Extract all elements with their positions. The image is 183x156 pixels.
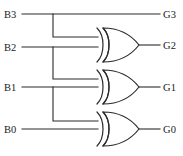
xor-gate-g0[interactable]	[97, 112, 160, 146]
xor-body-g1	[103, 70, 139, 104]
logic-circuit-diagram: B3 B2 B1 B0 G3 G2 G1 G0	[0, 0, 183, 156]
input-label-b3: B3	[4, 9, 16, 20]
xor-body-g0	[103, 112, 139, 146]
wire-b1-tap-to-xor-g0	[53, 87, 98, 121]
input-label-b1: B1	[4, 82, 16, 93]
output-label-g1: G1	[163, 82, 176, 93]
xor-body-g2	[103, 28, 139, 62]
input-label-b2: B2	[4, 42, 16, 53]
wire-b3-tap-to-xor-g2	[53, 14, 98, 37]
xor-gate-g2[interactable]	[97, 28, 160, 62]
output-label-g2: G2	[163, 40, 176, 51]
wire-b2-tap-to-xor-g1	[53, 47, 98, 79]
circuit-canvas: B3 B2 B1 B0 G3 G2 G1 G0	[0, 0, 183, 156]
input-label-b0: B0	[4, 124, 16, 135]
net-b3-tap	[53, 14, 98, 37]
output-label-g3: G3	[163, 9, 176, 20]
xor-back-arc-outer-g2	[97, 28, 103, 62]
net-b1	[22, 87, 98, 121]
net-b2	[22, 47, 98, 79]
output-label-g0: G0	[163, 124, 176, 135]
xor-gate-g1[interactable]	[97, 70, 160, 104]
